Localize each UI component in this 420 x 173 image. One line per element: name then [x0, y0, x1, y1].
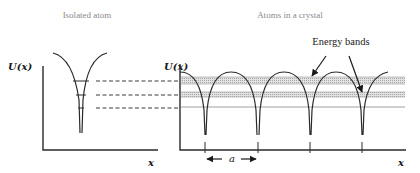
left-axes [43, 66, 158, 150]
crystal-panel: Atoms in a crystal U(x) x a [164, 10, 406, 168]
left-x-axis-label: x [147, 157, 155, 168]
right-x-axis-label: x [397, 157, 405, 168]
right-y-axis-label: U(x) [164, 61, 188, 72]
middle-energy-band [181, 92, 405, 97]
energy-bands-label: Energy bands [312, 36, 369, 47]
lattice-spacing-indicator: a [207, 153, 256, 164]
lattice-spacing-label: a [229, 153, 235, 164]
crystal-title: Atoms in a crystal [257, 10, 323, 20]
isolated-well-left-wall [53, 53, 80, 133]
isolated-atom-panel: Isolated atom U(x) x [8, 10, 180, 168]
left-y-axis-label: U(x) [8, 61, 32, 72]
isolated-well-right-wall [82, 53, 107, 133]
isolated-atom-title: Isolated atom [63, 10, 112, 20]
atom-position-ticks [205, 142, 362, 153]
energy-bands-arrow-1 [312, 56, 326, 76]
energy-band-diagram: Isolated atom U(x) x Atoms in a crystal … [0, 0, 420, 173]
